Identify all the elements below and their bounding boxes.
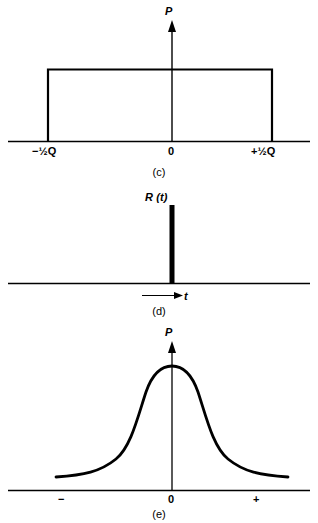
panel-e — [0, 320, 318, 523]
panel-caption-c: (c) — [0, 166, 318, 178]
t-direction-arrowhead — [174, 292, 183, 299]
x-tick-zero-c: 0 — [168, 146, 174, 157]
x-tick-negative-half-q: −½Q — [32, 146, 56, 157]
impulse-spike-bar — [170, 205, 175, 284]
y-axis-arrowhead-e — [168, 341, 176, 353]
x-tick-minus: − — [58, 494, 65, 505]
y-axis-label-e: P — [165, 327, 172, 338]
x-tick-zero-e: 0 — [168, 494, 174, 505]
panel-caption-d: (d) — [0, 305, 318, 317]
y-axis-arrowhead-c — [168, 20, 176, 32]
figure-container: P −½Q 0 +½Q (c) R (t) t (d) P − 0 + (e) — [0, 0, 318, 523]
y-axis-label-d: R (t) — [145, 192, 168, 203]
rect-pulse-curve — [48, 70, 272, 142]
x-axis-label-d: t — [184, 291, 188, 302]
panel-caption-e: (e) — [0, 508, 318, 520]
panel-e-plot — [0, 320, 318, 523]
y-axis-label-c: P — [165, 6, 172, 17]
x-tick-plus: + — [253, 494, 260, 505]
x-tick-positive-half-q: +½Q — [251, 146, 275, 157]
